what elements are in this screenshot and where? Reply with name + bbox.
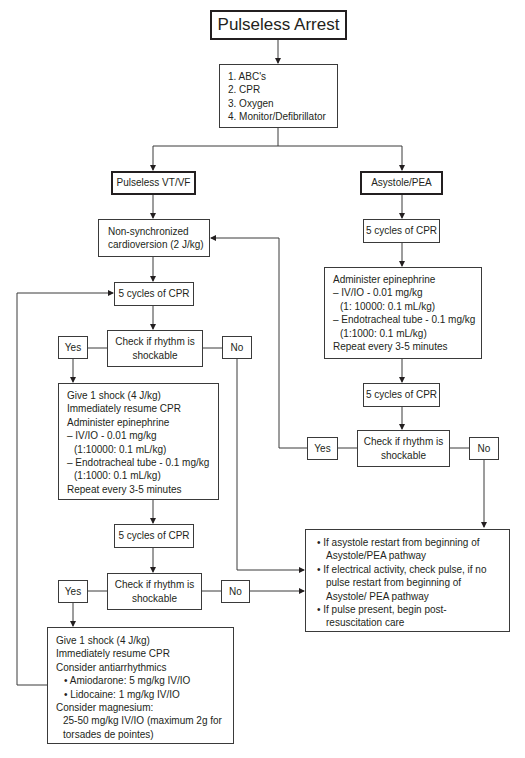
yes-label: Yes [65, 341, 81, 354]
step-item: 1. ABC's [228, 70, 329, 83]
outcome-item: • If pulse present, begin post-resuscita… [316, 603, 501, 630]
check-line: Check if rhythm is [115, 578, 194, 591]
cpr-label: 5 cycles of CPR [118, 287, 189, 300]
cpr-label: 5 cycles of CPR [118, 529, 189, 542]
shock-line: (1:10000: 0.1 mL/kg) [67, 443, 210, 456]
initial-steps-box: 1. ABC's 2. CPR 3. Oxygen 4. Monitor/Def… [219, 64, 338, 128]
yes-label: Yes [314, 442, 330, 455]
shock-line: Administer epinephrine [67, 416, 210, 429]
drug-bullet: • Lidocaine: 1 mg/kg IV/IO [56, 688, 225, 701]
check-line: shockable [381, 449, 426, 462]
no-box-right: No [469, 437, 499, 460]
outcome-item: • If electrical activity, check pulse, i… [316, 563, 501, 603]
rhythm-check-left-2: Check if rhythm is shockable [107, 573, 202, 610]
shock-line: Immediately resume CPR [56, 647, 225, 660]
shock-line: – Endotracheal tube - 0.1 mg/kg [67, 456, 210, 469]
vtvf-branch-box: Pulseless VT/VF [111, 171, 196, 195]
check-line: Check if rhythm is [115, 335, 194, 348]
shock-line: torsades de pointes) [56, 728, 225, 741]
no-label: No [478, 442, 491, 455]
step-item: 3. Oxygen [228, 97, 329, 110]
epi-line: – Endotracheal tube - 0.1 mg/kg [333, 313, 473, 326]
cardioversion-box: Non-synchronized cardioversion (2 J/kg) [98, 219, 210, 257]
epi-line: – IV/IO - 0.01 mg/kg [333, 286, 473, 299]
shock-line: Consider antiarrhythmics [56, 661, 225, 674]
cpr-box-left-2: 5 cycles of CPR [114, 524, 194, 548]
outcome-item: • If asystole restart from beginning of … [316, 536, 501, 563]
epi-line: Administer epinephrine [333, 273, 473, 286]
shock-line: – IV/IO - 0.01 mg/kg [67, 429, 210, 442]
vtvf-label: Pulseless VT/VF [117, 176, 191, 189]
cpr-label: 5 cycles of CPR [366, 388, 437, 401]
check-line: shockable [132, 592, 177, 605]
rhythm-check-left-1: Check if rhythm is shockable [107, 330, 203, 367]
epi-line: Repeat every 3-5 minutes [333, 340, 473, 353]
step-item: 2. CPR [228, 83, 329, 96]
asystole-label: Asystole/PEA [371, 176, 432, 189]
yes-box-left-1: Yes [58, 336, 88, 359]
shock-line: (1:1000: 0.1 mL/kg) [67, 469, 210, 482]
shock-line: 25-50 mg/kg IV/IO (maximum 2g for [56, 714, 225, 727]
check-line: Check if rhythm is [364, 435, 443, 448]
epi-line: (1:1000: 0.1 mL/kg) [333, 327, 473, 340]
asystole-branch-box: Asystole/PEA [360, 171, 443, 195]
yes-label: Yes [65, 585, 81, 598]
shock-line: Give 1 shock (4 J/kg) [56, 634, 225, 647]
title-box: Pulseless Arrest [210, 10, 347, 40]
check-line: shockable [132, 349, 177, 362]
yes-box-right: Yes [307, 437, 338, 460]
cpr-box-left-1: 5 cycles of CPR [114, 282, 194, 306]
shock-line: Give 1 shock (4 J/kg) [67, 389, 210, 402]
drug-bullet: • Amiodarone: 5 mg/kg IV/IO [56, 674, 225, 687]
cpr-label: 5 cycles of CPR [366, 224, 437, 237]
diagram-title: Pulseless Arrest [218, 18, 340, 31]
rhythm-check-right: Check if rhythm is shockable [357, 430, 450, 467]
shock-antiarrhythmics-box: Give 1 shock (4 J/kg) Immediately resume… [47, 627, 234, 744]
cardioversion-line: Non-synchronized [108, 225, 189, 238]
step-item: 4. Monitor/Defibrillator [228, 110, 329, 123]
yes-box-left-2: Yes [58, 580, 88, 603]
epi-line: (1: 10000: 0.1 mL/kg) [333, 300, 473, 313]
no-box-left-1: No [222, 336, 252, 359]
no-box-left-2: No [221, 580, 250, 603]
cardioversion-line: cardioversion (2 J/kg) [108, 238, 204, 251]
no-label: No [229, 585, 242, 598]
outcome-box: • If asystole restart from beginning of … [305, 529, 510, 632]
shock-epinephrine-box: Give 1 shock (4 J/kg) Immediately resume… [58, 383, 219, 500]
shock-line: Repeat every 3-5 minutes [67, 483, 210, 496]
epinephrine-box: Administer epinephrine – IV/IO - 0.01 mg… [324, 267, 482, 359]
no-label: No [231, 341, 244, 354]
shock-line: Immediately resume CPR [67, 402, 210, 415]
cpr-box-right-2: 5 cycles of CPR [363, 383, 440, 407]
cpr-box-right-1: 5 cycles of CPR [363, 219, 440, 243]
shock-line: Consider magnesium: [56, 701, 225, 714]
